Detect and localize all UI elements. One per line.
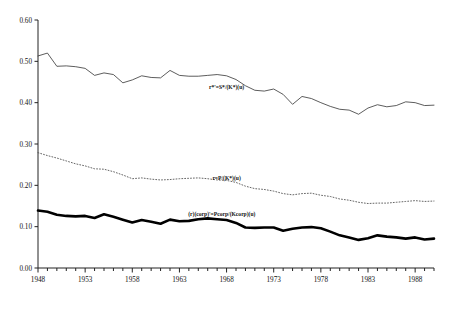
y-tick-label: 0.00 — [19, 265, 32, 273]
x-tick-label: 1963 — [172, 276, 187, 284]
x-tick-label: 1988 — [408, 276, 423, 284]
x-tick-label: 1983 — [361, 276, 376, 284]
x-tick-label: 1973 — [267, 276, 282, 284]
series-label-0: r*'=S*/(K*)(u) — [209, 84, 244, 91]
chart-figure: 0.000.100.200.300.400.500.60 19481953195… — [0, 0, 460, 315]
y-tick-label: 0.30 — [19, 141, 32, 149]
x-tick-label: 1953 — [78, 276, 93, 284]
y-tick-label: 0.60 — [19, 17, 32, 25]
x-tick-label: 1958 — [125, 276, 140, 284]
series-label-1: r=P/(K*)(u) — [212, 175, 240, 182]
y-tick-label: 0.40 — [19, 99, 32, 107]
series-label-2: (r)(corp)'=Pcorp/(Kcorp)(u) — [188, 211, 255, 218]
y-tick-label: 0.10 — [19, 223, 32, 231]
y-tick-label: 0.50 — [19, 58, 32, 66]
x-tick-label: 1948 — [31, 276, 46, 284]
y-tick-label: 0.20 — [19, 182, 32, 190]
chart-plot-area: 0.000.100.200.300.400.500.60 19481953195… — [0, 0, 460, 315]
x-tick-label: 1968 — [219, 276, 234, 284]
x-tick-label: 1978 — [314, 276, 329, 284]
